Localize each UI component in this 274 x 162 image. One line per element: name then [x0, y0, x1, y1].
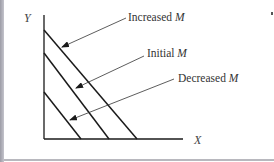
label-variable: M	[177, 47, 187, 59]
label-increased-m: Increased M	[128, 12, 185, 24]
label-text: Increased	[128, 11, 175, 23]
line-decreased-m	[44, 92, 81, 139]
arrow-increased-m	[62, 18, 126, 47]
bottom-rule	[4, 159, 274, 161]
x-axis-label: X	[194, 134, 201, 146]
y-axis-label: Y	[24, 12, 31, 24]
label-variable: M	[175, 11, 185, 23]
label-variable: M	[229, 72, 239, 84]
arrow-initial-m	[76, 56, 144, 88]
label-initial-m: Initial M	[147, 48, 187, 60]
line-increased-m	[44, 30, 137, 139]
label-text: Initial	[147, 47, 177, 59]
arrow-decreased-m	[70, 79, 174, 120]
label-text: Decreased	[178, 72, 229, 84]
line-initial-m	[44, 53, 109, 139]
label-decreased-m: Decreased M	[178, 73, 238, 85]
